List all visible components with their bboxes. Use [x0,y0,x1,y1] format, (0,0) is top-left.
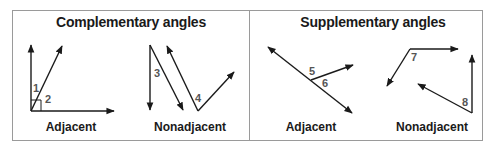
ray-up-right-arrow-icon [198,72,234,111]
angle-8-label: 8 [462,96,468,108]
angle-1-label: 1 [33,82,39,94]
angle-2-label: 2 [45,93,51,105]
ray-down-left-arrow-icon [387,49,410,86]
supplementary-nonadjacent-figure [387,49,472,113]
ray-up-left-arrow-icon [167,46,198,111]
angle-5-label: 5 [309,65,315,77]
angle-6-label: 6 [322,77,328,89]
complementary-adjacent-figure [31,45,114,111]
angle-4-label: 4 [195,92,202,104]
line-double-arrow-icon [268,47,352,113]
angles-diagram: 1 2 3 4 5 6 7 8 [0,0,497,148]
supplementary-adjacent-figure [268,47,353,113]
complementary-nonadjacent-figure [150,45,234,111]
ray-right-arrow-icon [311,65,353,80]
angle-3-label: 3 [154,67,160,79]
angle-7-label: 7 [411,51,417,63]
